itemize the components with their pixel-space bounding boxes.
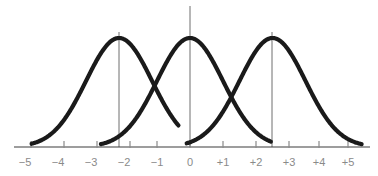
- tick-label-0: 0: [177, 156, 203, 169]
- tick-label-+2: +2: [243, 156, 269, 169]
- tick-label-+3: +3: [276, 156, 302, 169]
- tick-label-minus1: −1: [144, 156, 170, 169]
- figure-canvas: −5−4−3−2−10+1+2+3+4+5: [0, 0, 378, 176]
- tick-label-+5: +5: [335, 156, 361, 169]
- curve-left: [32, 38, 179, 144]
- tick-label-minus2: −2: [111, 156, 137, 169]
- tick-label-+4: +4: [306, 156, 332, 169]
- tick-label-minus5: −5: [12, 156, 38, 169]
- distribution-plot: [0, 0, 378, 176]
- tick-label-+1: +1: [210, 156, 236, 169]
- tick-label-minus4: −4: [45, 156, 71, 169]
- tick-label-minus3: −3: [78, 156, 104, 169]
- curve-center: [101, 38, 271, 144]
- curves-group: [32, 38, 362, 144]
- curve-right: [187, 38, 362, 144]
